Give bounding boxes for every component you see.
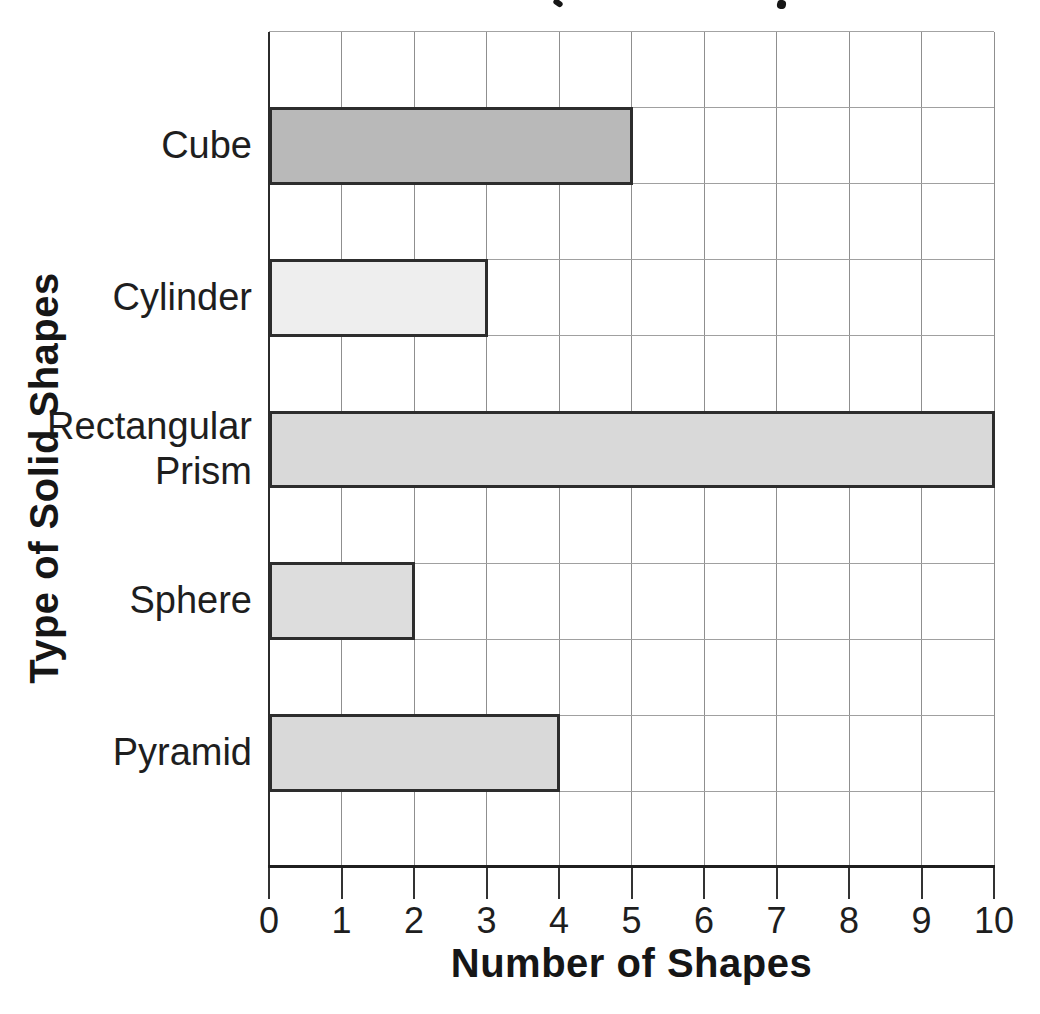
x-tick-label-1: 1 [331, 901, 351, 941]
x-tick-label-3: 3 [476, 901, 496, 941]
x-tick-mark-2 [413, 866, 415, 899]
bar-rectangular-prism [269, 411, 995, 489]
bar-pyramid [269, 714, 560, 792]
bar-chart: Type of Solid Shapes CubeCylinderRectang… [0, 0, 1040, 1014]
x-tick-label-9: 9 [911, 901, 931, 941]
x-tick-mark-9 [921, 866, 923, 899]
x-tick-mark-4 [558, 866, 560, 899]
category-label-sphere: Sphere [0, 578, 252, 623]
y-axis-line [268, 32, 270, 867]
bar-cube [269, 107, 633, 185]
x-tick-mark-6 [703, 866, 705, 899]
category-label-line: Cylinder [0, 274, 252, 319]
x-tick-label-6: 6 [694, 901, 714, 941]
category-label-line: Rectangular [0, 404, 252, 449]
category-label-rectangular-prism: RectangularPrism [0, 404, 252, 494]
x-axis-title: Number of Shapes [269, 941, 994, 986]
x-tick-label-0: 0 [259, 901, 279, 941]
category-label-line: Pyramid [0, 730, 252, 775]
x-tick-label-5: 5 [621, 901, 641, 941]
plot-area [269, 31, 994, 867]
category-label-pyramid: Pyramid [0, 730, 252, 775]
clipped-title-descender-1 [552, 0, 564, 8]
category-label-cube: Cube [0, 122, 252, 167]
x-axis-line [268, 865, 995, 868]
x-tick-label-4: 4 [549, 901, 569, 941]
x-tick-mark-1 [341, 866, 343, 899]
clipped-title-descender-2 [776, 0, 786, 10]
x-tick-label-8: 8 [839, 901, 859, 941]
x-tick-label-2: 2 [404, 901, 424, 941]
category-label-line: Sphere [0, 578, 252, 623]
category-label-cylinder: Cylinder [0, 274, 252, 319]
category-label-line: Cube [0, 122, 252, 167]
x-tick-mark-8 [848, 866, 850, 899]
x-tick-label-10: 10 [974, 901, 1014, 941]
bar-cylinder [269, 259, 488, 337]
x-tick-mark-0 [268, 866, 270, 899]
bar-sphere [269, 562, 415, 640]
x-tick-label-7: 7 [766, 901, 786, 941]
x-tick-mark-3 [486, 866, 488, 899]
x-tick-mark-7 [776, 866, 778, 899]
category-label-line: Prism [0, 449, 252, 494]
x-tick-mark-10 [993, 866, 995, 899]
x-tick-mark-5 [631, 866, 633, 899]
